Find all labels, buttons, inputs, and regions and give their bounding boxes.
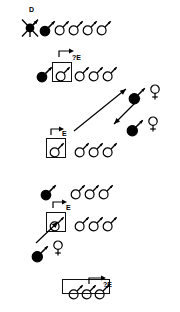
label-lbl-e2: E	[66, 204, 71, 211]
arrow-migrate-up	[74, 89, 126, 131]
diagram-canvas: D?EEE?E	[0, 0, 180, 312]
label-lbl-qe2: ?E	[103, 281, 112, 288]
label-lbl-d: D	[29, 6, 34, 13]
label-lbl-e1: E	[62, 130, 67, 137]
label-lbl-qe1: ?E	[72, 54, 81, 61]
migration-arrow-layer	[0, 0, 180, 312]
